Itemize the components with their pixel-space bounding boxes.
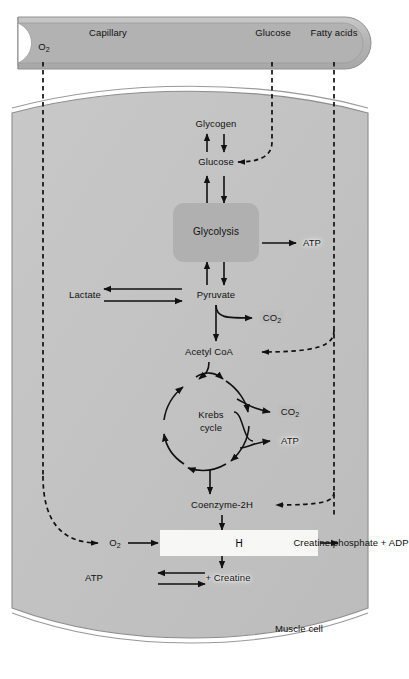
node-acetyl-coa: Acetyl CoA [185, 347, 233, 357]
node-atp-krebs: ATP [281, 436, 299, 446]
capillary-label: Capillary [89, 28, 127, 38]
node-o2-cell: O2 [109, 538, 121, 549]
node-krebs-line1: Krebs [198, 410, 223, 420]
node-glycolysis: Glycolysis [193, 227, 239, 237]
capillary-vessel [18, 17, 371, 69]
node-glucose: Glucose [198, 157, 234, 167]
muscle-cell-label: Muscle cell [275, 624, 323, 634]
node-h2o: Creatine phosphate + ADP [293, 538, 408, 549]
node-oxidative-phosphorylation: H [229, 535, 248, 552]
node-creatine-phosphate-adp: ATP [85, 573, 103, 583]
node-atp-glycolysis: ATP [303, 238, 321, 248]
capillary-glucose-label: Glucose [255, 28, 291, 38]
node-coenzyme-2h: Coenzyme-2H [191, 500, 253, 510]
node-co2-krebs: CO2 [278, 407, 302, 418]
node-pyruvate: Pyruvate [197, 290, 235, 300]
node-krebs-line2: cycle [200, 423, 222, 433]
node-lactate: Lactate [69, 290, 101, 300]
muscle-cell-body [12, 86, 368, 643]
node-atp-creatine: + Creatine [205, 573, 250, 583]
capillary-fatty-acids-label: Fatty acids [310, 28, 357, 38]
node-glycogen: Glycogen [196, 119, 237, 129]
capillary-o2-label: O2 [38, 42, 50, 53]
node-co2-pyruvate: CO2 [260, 313, 284, 324]
